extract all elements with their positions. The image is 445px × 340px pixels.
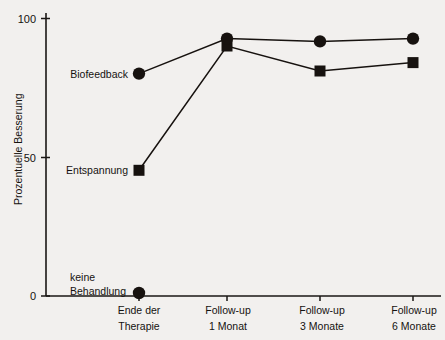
data-point-biofeedback-followup-1-monat [221,32,233,44]
data-point-entspannung-ende-der-therapie [134,165,145,176]
data-point-entspannung-followup-6-monate [408,57,419,68]
data-point-biofeedback-followup-3-monate [314,35,326,47]
chart-container: 100 50 0 Prozentuelle Besserung Biofeedb… [0,0,445,340]
data-point-biofeedback-ende-der-therapie [133,67,145,79]
series-annotation-keine-behandlung-line2: Behandlung [70,285,126,297]
data-point-keine-behandlung-ende-der-therapie [133,287,145,299]
x-axis-label-followup-6-monate-line1: Follow-up [391,304,437,316]
y-axis-tick-label-100: 100 [18,13,36,25]
series-annotation-entspannung: Entspannung [66,164,128,176]
series-line-entspannung [139,46,413,170]
y-axis-tick-label-50: 50 [24,152,36,164]
x-axis-label-followup-3-monate-line1: Follow-up [299,304,345,316]
data-point-entspannung-followup-3-monate [315,66,326,77]
x-axis-label-ende-der-therapie-line2: Therapie [118,320,160,332]
data-point-biofeedback-followup-6-monate [407,32,419,44]
y-axis-tick-label-0: 0 [30,290,36,302]
x-axis-label-followup-1-monat-line2: 1 Monat [209,320,247,332]
x-axis-label-ende-der-therapie-line1: Ende der [118,304,161,316]
series-annotation-keine-behandlung-line1: keine [70,271,95,283]
line-chart: 100 50 0 Prozentuelle Besserung Biofeedb… [0,0,445,340]
x-axis-label-followup-6-monate-line2: 6 Monate [392,320,436,332]
x-axis-label-followup-1-monat-line1: Follow-up [205,304,251,316]
series-line-biofeedback [139,39,413,74]
series-annotation-biofeedback: Biofeedback [70,68,129,80]
y-axis-title: Prozentuelle Besserung [12,93,24,205]
x-axis-label-followup-3-monate-line2: 3 Monate [300,320,344,332]
